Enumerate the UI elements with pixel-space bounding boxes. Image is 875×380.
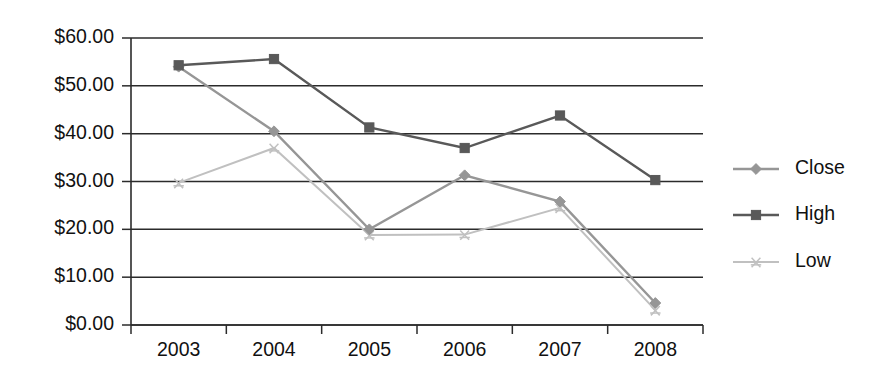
y-axis-label: $0.00 bbox=[65, 312, 114, 334]
x-axis-label-2006: 2006 bbox=[443, 338, 486, 360]
legend-item-high[interactable]: High bbox=[733, 202, 835, 224]
x-axis-label-2007: 2007 bbox=[538, 338, 581, 360]
legend-label-close: Close bbox=[795, 156, 845, 178]
x-axis-label-2008: 2008 bbox=[634, 338, 677, 360]
x-axis-label-2003: 2003 bbox=[157, 338, 200, 360]
y-axis-label: $50.00 bbox=[54, 73, 114, 95]
chart-canvas: $60.00$50.00$40.00$30.00$20.00$10.00$0.0… bbox=[0, 0, 875, 380]
gridlines-group bbox=[131, 38, 703, 325]
marker-square bbox=[651, 175, 660, 184]
series-close bbox=[173, 61, 660, 308]
marker-diamond bbox=[751, 164, 762, 175]
legend-item-low[interactable]: Low bbox=[733, 249, 832, 271]
marker-square bbox=[460, 143, 469, 152]
series-high bbox=[174, 54, 660, 184]
y-axis-label: $10.00 bbox=[54, 264, 114, 286]
y-axis-label: $30.00 bbox=[54, 169, 114, 191]
x-axis-label-2004: 2004 bbox=[252, 338, 296, 360]
marker-diamond bbox=[459, 170, 470, 181]
marker-square bbox=[269, 54, 278, 63]
y-axis-labels-group: $60.00$50.00$40.00$30.00$20.00$10.00$0.0… bbox=[54, 25, 114, 334]
marker-square bbox=[174, 61, 183, 70]
data-series-group bbox=[173, 54, 660, 315]
chart-legend: CloseHighLow bbox=[733, 156, 845, 271]
line-chart: $60.00$50.00$40.00$30.00$20.00$10.00$0.0… bbox=[0, 0, 875, 380]
series-line-high bbox=[179, 59, 656, 180]
x-axis-label-2005: 2005 bbox=[348, 338, 392, 360]
marker-star bbox=[173, 179, 183, 188]
x-tick-marks-group bbox=[131, 325, 703, 334]
legend-item-close[interactable]: Close bbox=[733, 156, 845, 178]
y-tick-marks-group bbox=[122, 38, 131, 325]
y-axis-label: $20.00 bbox=[54, 216, 114, 238]
y-axis-label: $40.00 bbox=[54, 121, 114, 143]
x-axis-labels-group: 200320042005200620072008 bbox=[157, 338, 677, 360]
legend-label-high: High bbox=[795, 202, 835, 224]
marker-square bbox=[751, 210, 760, 219]
marker-square bbox=[365, 123, 374, 132]
marker-square bbox=[555, 111, 564, 120]
series-line-close bbox=[179, 67, 656, 303]
y-axis-label: $60.00 bbox=[54, 25, 114, 47]
legend-label-low: Low bbox=[795, 249, 832, 271]
